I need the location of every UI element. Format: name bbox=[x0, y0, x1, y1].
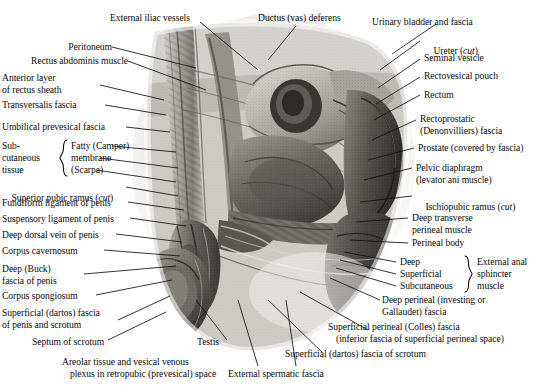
label-superficial-dartos-scrotum: Superficial (dartos) fascia of scrotum bbox=[285, 348, 426, 359]
label-suspensory-ligament: Suspensory ligament of penis bbox=[2, 213, 114, 224]
label-deep-transverse-line1: Deep transverse bbox=[412, 212, 473, 223]
label-eas-superficial: Superficial bbox=[400, 268, 442, 279]
label-external-iliac-vessels: External iliac vessels bbox=[110, 12, 190, 23]
left-curly-brace-icon bbox=[59, 139, 68, 177]
label-ischiopubic-ramus-paren: ) bbox=[512, 201, 515, 212]
label-superficial-perineal-line2: (inferior fascia of superficial perineal… bbox=[336, 333, 504, 344]
label-corpus-spongiosum: Corpus spongiosum bbox=[2, 290, 78, 301]
label-membrane: membrane bbox=[71, 152, 111, 163]
label-rectoprostatic-line2: (Denonvilliers) fascia bbox=[420, 125, 502, 136]
label-external-spermatic-fascia: External spermatic fascia bbox=[228, 368, 324, 379]
label-subcutaneous-line3: tissue bbox=[2, 164, 24, 175]
anatomy-illustration bbox=[133, 14, 418, 364]
anatomical-plate: Peritoneum Rectus abdominis muscle Anter… bbox=[0, 0, 538, 385]
label-superficial-dartos-penis-line1: Superficial (dartos) fascia bbox=[2, 307, 100, 318]
label-subcutaneous-line2: cutaneous bbox=[2, 152, 40, 163]
label-urinary-bladder-and-fascia: Urinary bladder and fascia bbox=[372, 16, 473, 27]
label-ductus-vas-deferens: Ductus (vas) deferens bbox=[258, 12, 341, 23]
label-rectum: Rectum bbox=[424, 89, 454, 100]
label-perineal-body: Perineal body bbox=[412, 237, 464, 248]
label-rectus-abdominis-muscle: Rectus abdominis muscle bbox=[0, 55, 128, 66]
label-eas-deep: Deep bbox=[400, 256, 420, 267]
label-deep-buck-line1: Deep (Buck) bbox=[2, 263, 51, 274]
label-external-anal-line3: muscle bbox=[477, 280, 504, 291]
label-deep-transverse-line2: perineal muscle bbox=[412, 224, 472, 235]
label-corpus-cavernosum: Corpus cavernosum bbox=[2, 245, 78, 256]
label-external-anal-line2: sphincter bbox=[477, 268, 512, 279]
label-anterior-layer-line2: of rectus sheath bbox=[2, 84, 122, 95]
label-pelvic-diaphragm-line1: Pelvic diaphragm bbox=[416, 162, 483, 173]
label-areolar-tissue-line2: plexus in retropubic (prevesical) space bbox=[70, 368, 216, 379]
label-scarpa: (Scarpa) bbox=[71, 164, 103, 175]
label-subcutaneous-line1: Sub- bbox=[2, 140, 20, 151]
label-superficial-dartos-penis-line2: of penis and scrotum bbox=[2, 319, 81, 330]
label-fundiform-ligament: Fundiform ligament of penis bbox=[2, 197, 111, 208]
label-umbilical-prevesical-fascia: Umbilical prevesical fascia bbox=[2, 121, 142, 132]
label-prostate: Prostate (covered by fascia) bbox=[418, 142, 523, 153]
label-areolar-tissue-line1: Areolar tissue and vesical venous bbox=[62, 356, 189, 367]
label-deep-perineal-line1: Deep perineal (investing or bbox=[382, 294, 485, 305]
label-eas-subcutaneous: Subcutaneous bbox=[400, 280, 453, 291]
label-pelvic-diaphragm-line2: (levator ani muscle) bbox=[416, 174, 492, 185]
label-ischiopubic-ramus: Ischiopubic ramus ( bbox=[425, 201, 500, 212]
label-septum-of-scrotum: Septum of scrotum bbox=[32, 336, 104, 347]
label-rectoprostatic-line1: Rectoprostatic bbox=[420, 113, 475, 124]
right-curly-brace-icon bbox=[464, 255, 473, 293]
label-rectovesical-pouch: Rectovesical pouch bbox=[424, 70, 498, 81]
label-deep-perineal-line2: Gallaudet) fascia bbox=[382, 306, 446, 317]
label-transversalis-fascia: Transversalis fascia bbox=[2, 99, 132, 110]
label-fatty-camper: Fatty (Camper) bbox=[71, 140, 129, 151]
label-ischiopubic-ramus-cut: cut bbox=[501, 201, 513, 212]
label-seminal-vesicle: Seminal vesicle bbox=[424, 52, 484, 63]
label-testis: Testis bbox=[197, 336, 219, 347]
label-deep-buck-line2: fascia of penis bbox=[2, 275, 57, 286]
label-superficial-perineal-line1: Superficial perineal (Colles) fascia bbox=[328, 321, 460, 332]
label-external-anal-line1: External anal bbox=[477, 256, 527, 267]
label-anterior-layer-line1: Anterior layer bbox=[2, 72, 122, 83]
label-peritoneum: Peritoneum bbox=[0, 41, 112, 52]
label-deep-dorsal-vein: Deep dorsal vein of penis bbox=[2, 229, 99, 240]
